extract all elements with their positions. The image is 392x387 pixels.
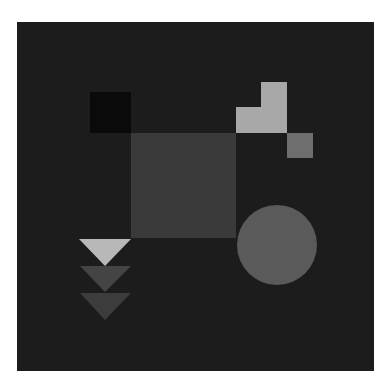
small-square bbox=[287, 133, 313, 158]
black-square bbox=[90, 92, 131, 133]
l-block-bar bbox=[236, 107, 287, 133]
shapes-svg bbox=[0, 0, 392, 387]
center-square bbox=[131, 133, 236, 238]
l-block-top bbox=[261, 82, 287, 108]
circle bbox=[237, 205, 317, 285]
canvas bbox=[0, 0, 392, 387]
